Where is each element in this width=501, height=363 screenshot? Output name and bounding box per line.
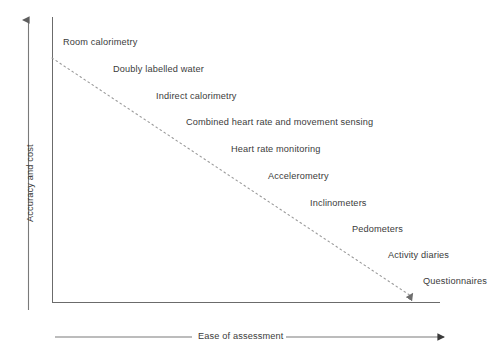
x-axis-title: Ease of assessment [198, 332, 283, 341]
data-point-label: Room calorimetry [63, 38, 137, 47]
data-point-label: Questionnaires [423, 277, 487, 286]
data-point-label: Doubly labelled water [113, 65, 204, 74]
data-point-label: Heart rate monitoring [231, 145, 320, 154]
data-point-label: Combined heart rate and movement sensing [186, 118, 373, 127]
data-point-label: Inclinometers [310, 199, 367, 208]
data-point-label: Accelerometry [268, 172, 329, 181]
chart-vector-layer [0, 0, 501, 363]
figure-canvas: Accuracy and cost Ease of assessment Roo… [0, 0, 501, 363]
y-axis-title: Accuracy and cost [26, 144, 35, 222]
data-point-label: Pedometers [352, 225, 403, 234]
data-point-label: Activity diaries [388, 251, 449, 260]
data-point-label: Indirect calorimetry [156, 92, 237, 101]
